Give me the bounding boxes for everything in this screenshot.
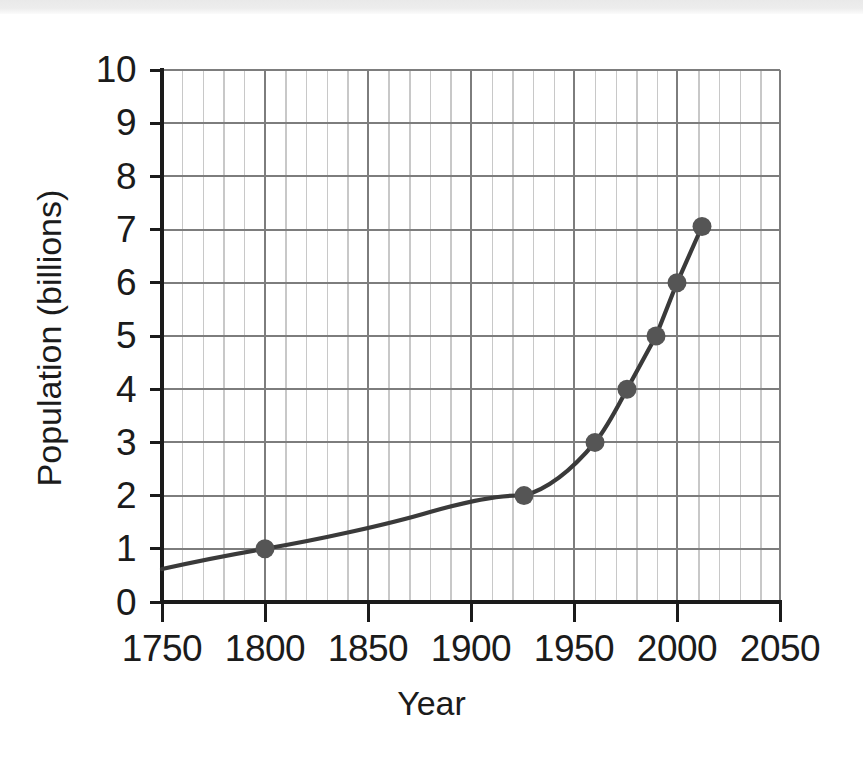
y-tick-label-10: 10 <box>76 51 136 88</box>
data-point <box>586 433 605 452</box>
data-point <box>693 217 712 236</box>
y-tick-label-0: 0 <box>76 584 136 621</box>
data-point <box>647 327 666 346</box>
data-point-markers <box>256 217 712 558</box>
y-tick-label-4: 4 <box>76 371 136 408</box>
y-axis-ticks <box>150 70 162 602</box>
y-tick-label-7: 7 <box>76 211 136 248</box>
y-tick-label-2: 2 <box>76 477 136 514</box>
data-point <box>256 539 275 558</box>
x-axis-title: Year <box>0 686 863 720</box>
y-tick-label-5: 5 <box>76 317 136 354</box>
x-tick-label-2050: 2050 <box>715 630 845 667</box>
x-axis-ticks <box>162 602 780 622</box>
data-point <box>515 486 534 505</box>
population-line <box>162 227 702 570</box>
data-point <box>668 273 687 292</box>
y-tick-label-8: 8 <box>76 158 136 195</box>
y-tick-label-6: 6 <box>76 264 136 301</box>
y-tick-label-1: 1 <box>76 530 136 567</box>
population-growth-chart: 10 9 8 7 6 5 4 3 2 1 0 1750 1800 1850 19… <box>0 0 863 763</box>
data-point <box>618 380 637 399</box>
y-tick-label-9: 9 <box>76 104 136 141</box>
y-tick-label-3: 3 <box>76 424 136 461</box>
